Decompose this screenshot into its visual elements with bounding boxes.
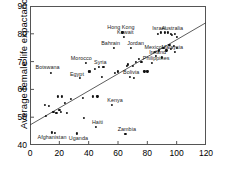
x-tick-label: 60	[113, 145, 122, 158]
trend-line	[30, 23, 206, 125]
x-tick-label: 100	[170, 145, 184, 158]
plot-area: 405060708090 020406080100120 BotswanaAfg…	[30, 6, 206, 145]
point-label: Bolivia	[123, 69, 139, 75]
x-tick-label: 0	[28, 145, 33, 158]
point-label: Ireland	[149, 49, 166, 55]
point-label: Egypt	[70, 71, 84, 77]
x-tick-label: 20	[55, 145, 64, 158]
y-tick-label: 70	[18, 57, 30, 67]
point-label: Australia	[162, 25, 183, 31]
x-tick-label: 80	[143, 145, 152, 158]
x-tick-label: 40	[84, 145, 93, 158]
point-label: Syria	[94, 59, 107, 65]
y-tick-label: 50	[18, 112, 30, 122]
x-tick-label: 120	[199, 145, 213, 158]
point-label: Morocco	[71, 55, 92, 61]
point-label: Philippines	[143, 55, 170, 61]
point-label: Bahrain	[101, 40, 120, 46]
point-label: Botswana	[36, 64, 60, 70]
y-tick-label: 60	[18, 84, 30, 94]
point-label: Zambia	[118, 126, 136, 132]
point-label: Kuwait	[117, 29, 133, 35]
point-label: Afghanistan	[37, 134, 66, 140]
point-label: Malaysia	[161, 44, 183, 50]
point-label: Haiti	[92, 119, 103, 125]
point-label: Jordan	[127, 40, 144, 46]
scatter-chart: Average female life expactancy 405060708…	[0, 0, 233, 174]
y-tick-label: 80	[18, 29, 30, 39]
point-label: Uganda	[69, 135, 88, 141]
y-tick-label: 90	[18, 1, 30, 11]
point-label: Kenya	[107, 97, 123, 103]
